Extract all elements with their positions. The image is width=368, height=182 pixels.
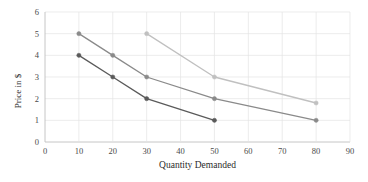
data-point (212, 75, 216, 79)
x-tick-label: 0 (43, 146, 47, 156)
x-tick-label: 80 (312, 146, 321, 156)
y-tick-label: 5 (19, 29, 39, 39)
y-tick-label: 4 (19, 50, 39, 60)
x-axis-title: Quantity Demanded (45, 160, 350, 170)
series-layer (45, 12, 350, 142)
x-tick-label: 50 (210, 146, 219, 156)
data-point (314, 118, 318, 122)
x-tick-label: 10 (75, 146, 84, 156)
y-tick-label: 3 (19, 72, 39, 82)
y-tick-label: 2 (19, 94, 39, 104)
x-tick-label: 30 (142, 146, 151, 156)
x-tick-label: 20 (109, 146, 118, 156)
data-point (212, 97, 216, 101)
data-point (111, 75, 115, 79)
plot-area (45, 12, 350, 142)
data-point (212, 118, 216, 122)
data-point (314, 101, 318, 105)
series-line-1 (79, 55, 215, 120)
y-tick-label: 0 (19, 137, 39, 147)
demand-curve-chart: Price in $ 0123456 0102030405060708090 Q… (0, 0, 368, 182)
x-tick-label: 90 (346, 146, 355, 156)
x-tick-label: 40 (176, 146, 185, 156)
data-point (77, 32, 81, 36)
data-point (145, 32, 149, 36)
data-point (77, 53, 81, 57)
series-line-3 (147, 34, 316, 103)
y-tick-label: 6 (19, 7, 39, 17)
x-tick-label: 70 (278, 146, 287, 156)
data-point (111, 53, 115, 57)
data-point (145, 75, 149, 79)
y-tick-label: 1 (19, 115, 39, 125)
x-tick-label: 60 (244, 146, 253, 156)
data-point (145, 97, 149, 101)
